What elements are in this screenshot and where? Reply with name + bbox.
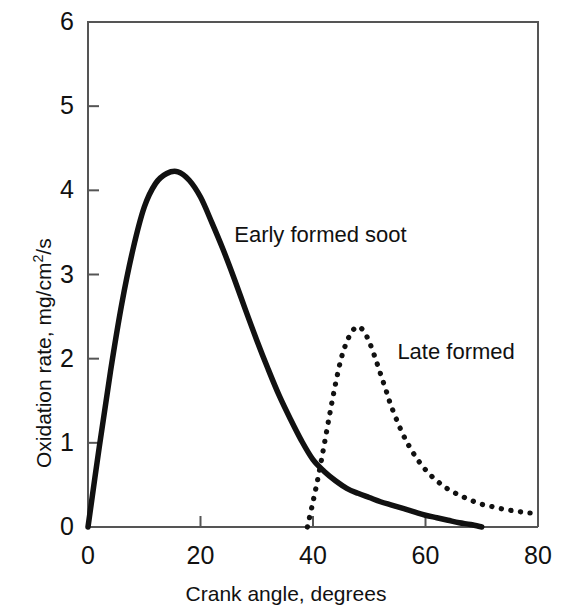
y-tick-label: 4 [40,177,74,202]
x-tick-label: 20 [171,543,231,568]
series-annotation-label: Early formed soot [234,224,406,246]
y-tick-label: 5 [40,93,74,118]
series-annotation-label: Late formed [397,341,514,363]
y-axis-title-wrapper: Oxidation rate, mg/cm2/s [0,0,40,540]
y-axis-title-post: /s [32,238,55,254]
x-axis-title: Crank angle, degrees [0,583,572,604]
x-tick-label: 0 [58,543,118,568]
y-axis-title: Oxidation rate, mg/cm2/s [30,238,56,468]
x-tick-label: 40 [283,543,343,568]
chart-figure: 0123456 020406080 Oxidation rate, mg/cm2… [0,0,572,616]
y-axis-title-pre: Oxidation rate, mg/cm [32,263,55,468]
plot-canvas [0,0,572,616]
x-axis-ticks [201,516,426,527]
x-tick-label: 80 [508,543,568,568]
y-tick-label: 6 [40,9,74,34]
plot-frame-border [88,22,538,527]
x-tick-label: 60 [396,543,456,568]
y-axis-title-superscript: 2 [30,255,46,263]
y-tick-label: 0 [40,514,74,539]
plot-frame [88,22,538,527]
